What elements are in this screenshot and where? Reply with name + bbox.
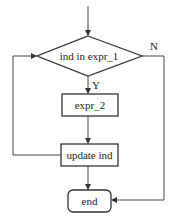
body-label: expr_2 [75, 99, 106, 111]
body-node: expr_2 [62, 94, 118, 116]
decision-label: ind in expr_1 [60, 50, 119, 62]
yes-label: Y [92, 79, 100, 91]
loop-back-arrow [13, 56, 61, 155]
no-label: N [150, 40, 158, 52]
flowchart-canvas: ind in expr_1 Y expr_2 update ind N end [0, 0, 172, 224]
end-node: end [68, 190, 111, 212]
no-arrow [112, 56, 164, 200]
update-node: update ind [61, 144, 118, 166]
decision-node: ind in expr_1 [37, 36, 142, 76]
end-label: end [82, 195, 98, 207]
update-label: update ind [66, 149, 113, 161]
